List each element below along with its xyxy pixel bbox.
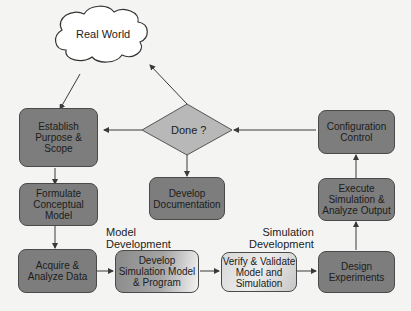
design-experiments-node: DesignExperiments <box>318 251 395 293</box>
simulation-development-label: Simulation Development <box>249 226 314 250</box>
formulate-model-node: FormulateConceptualModel <box>19 183 98 226</box>
done-label: Done ? <box>171 124 206 136</box>
develop-documentation-node: DevelopDocumentation <box>149 177 225 220</box>
execute-simulation-node: ExecuteSimulation &Analyze Output <box>318 178 395 221</box>
model-development-label: Model Development <box>106 226 171 250</box>
develop-simulation-node: DevelopSimulation Model& Program <box>115 250 199 293</box>
real-world-label: Real World <box>76 28 130 40</box>
acquire-data-node: Acquire &Analyze Data <box>18 249 97 293</box>
configuration-control-node: ConfigurationControl <box>318 110 395 154</box>
establish-purpose-node: EstablishPurpose &Scope <box>19 108 98 167</box>
verify-validate-node: Verify & ValidateModel andSimulation <box>221 252 297 292</box>
